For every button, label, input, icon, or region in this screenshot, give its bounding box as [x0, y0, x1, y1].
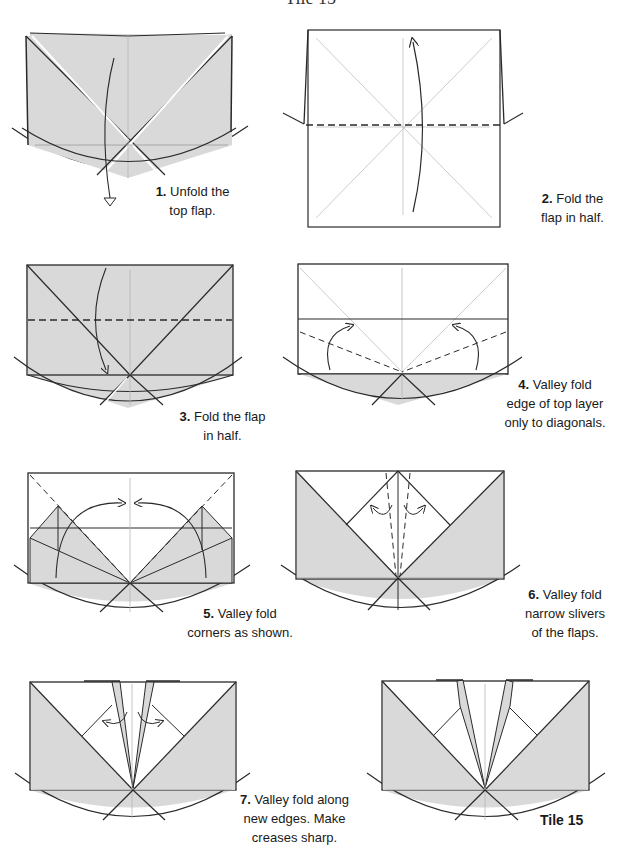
final-result-diagram [367, 680, 605, 820]
step-1-diagram [12, 33, 248, 206]
step-2-diagram [283, 30, 523, 227]
step-text: in half. [165, 426, 280, 445]
step-number: 5. [203, 606, 214, 621]
step-number: 3. [179, 409, 190, 424]
step-number: 2. [542, 191, 553, 206]
step-5-caption: 5. Valley fold corners as shown. [180, 604, 300, 642]
step-3-diagram [14, 265, 242, 408]
step-text: Fold the [556, 191, 603, 206]
step-1-caption: 1. Unfold the top flap. [140, 182, 245, 220]
step-number: 6. [528, 587, 539, 602]
step-text: creases sharp. [232, 828, 357, 845]
step-text: narrow slivers [510, 604, 620, 623]
step-text: edge of top layer [490, 394, 620, 413]
step-number: 7. [240, 792, 251, 807]
step-text: flap in half. [525, 208, 620, 227]
step-3-caption: 3. Fold the flap in half. [165, 407, 280, 445]
step-text: Valley fold [218, 606, 277, 621]
step-number: 4. [518, 377, 529, 392]
step-6-diagram [281, 471, 520, 610]
step-text: Valley fold [533, 377, 592, 392]
step-text: new edges. Make [232, 809, 357, 828]
step-2-caption: 2. Fold the flap in half. [525, 189, 620, 227]
step-7-caption: 7. Valley fold along new edges. Make cre… [232, 790, 357, 845]
step-5-diagram [14, 473, 250, 612]
step-4-caption: 4. Valley fold edge of top layer only to… [490, 375, 620, 432]
step-text: top flap. [140, 201, 245, 220]
tile-label: Tile 15 [540, 812, 583, 828]
step-7-diagram [15, 681, 250, 820]
step-text: Unfold the [170, 184, 229, 199]
step-6-caption: 6. Valley fold narrow slivers of the fla… [510, 585, 620, 642]
step-text: corners as shown. [180, 623, 300, 642]
step-text: of the flaps. [510, 623, 620, 642]
step-4-diagram [283, 264, 522, 405]
step-text: Valley fold along [255, 792, 349, 807]
step-text: Valley fold [543, 587, 602, 602]
step-text: Fold the flap [194, 409, 266, 424]
step-number: 1. [156, 184, 167, 199]
step-text: only to diagonals. [490, 413, 620, 432]
